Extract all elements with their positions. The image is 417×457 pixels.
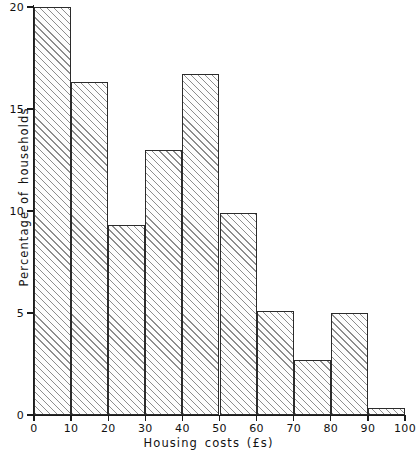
x-tick-label: 30	[125, 423, 165, 434]
x-tick-mark	[145, 415, 146, 421]
x-tick-mark	[108, 415, 109, 421]
x-axis-title: Housing costs (£s)	[0, 436, 417, 450]
x-tick-mark	[33, 415, 34, 421]
x-tick-label: 100	[385, 423, 417, 434]
x-tick-mark	[256, 415, 257, 421]
x-tick-mark	[404, 415, 405, 421]
y-tick-mark	[27, 6, 33, 7]
histogram-bar	[368, 408, 405, 415]
x-tick-mark	[219, 415, 220, 421]
x-tick-mark	[367, 415, 368, 421]
y-tick-mark	[27, 414, 33, 415]
x-tick-label: 0	[14, 423, 54, 434]
x-tick-label: 20	[88, 423, 128, 434]
histogram-bar	[331, 313, 368, 415]
y-tick-label: 20	[2, 2, 24, 13]
plot-area	[34, 7, 405, 415]
x-tick-label: 70	[274, 423, 314, 434]
x-tick-label: 50	[200, 423, 240, 434]
histogram-bar	[182, 74, 219, 415]
x-tick-label: 10	[51, 423, 91, 434]
histogram-bar	[145, 150, 182, 415]
x-tick-label: 90	[348, 423, 388, 434]
x-tick-mark	[293, 415, 294, 421]
histogram-bar	[71, 82, 108, 415]
histogram-bar	[220, 213, 257, 415]
histogram-bar	[257, 311, 294, 415]
x-tick-label: 80	[311, 423, 351, 434]
y-tick-label: 0	[2, 410, 24, 421]
x-tick-label: 40	[162, 423, 202, 434]
x-tick-mark	[330, 415, 331, 421]
histogram-figure: 05101520 0102030405060708090100 Housing …	[0, 0, 417, 457]
x-tick-label: 60	[237, 423, 277, 434]
y-axis-title: Percentage of households	[17, 77, 31, 317]
x-tick-mark	[182, 415, 183, 421]
histogram-bar	[294, 360, 331, 415]
histogram-bar	[108, 225, 145, 415]
histogram-bar	[34, 7, 71, 415]
x-tick-mark	[70, 415, 71, 421]
